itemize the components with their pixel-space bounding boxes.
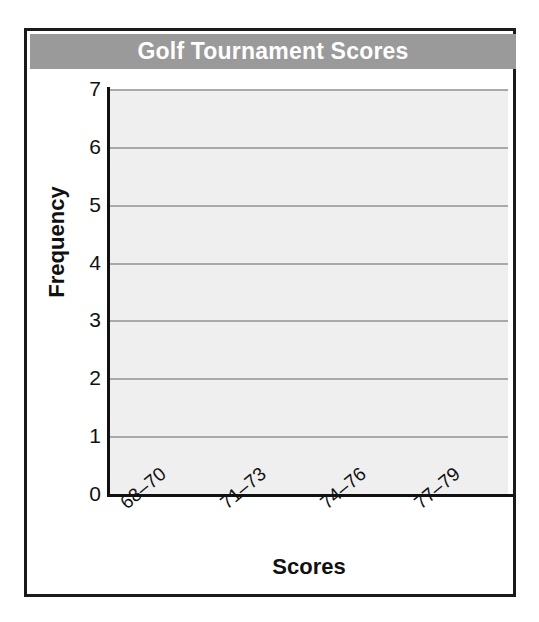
chart-figure-frame: Golf Tournament Scores 7 6 5 4 3 2 1 0 F… xyxy=(24,28,516,597)
y-axis-tick-labels: 7 6 5 4 3 2 1 0 xyxy=(67,31,101,594)
gridline-7 xyxy=(110,89,508,91)
y-tick-label: 0 xyxy=(67,483,101,504)
gridline-3 xyxy=(110,320,508,322)
y-tick-label: 7 xyxy=(67,78,101,99)
y-tick-label: 1 xyxy=(67,425,101,446)
y-axis-line xyxy=(107,87,110,497)
gridline-1 xyxy=(110,436,508,438)
y-tick-label: 3 xyxy=(67,309,101,330)
x-axis-tick-labels: 68–70 71–73 74–76 77–79 xyxy=(110,497,508,557)
y-tick-label: 5 xyxy=(67,194,101,215)
gridline-6 xyxy=(110,147,508,149)
chart-title-banner: Golf Tournament Scores xyxy=(30,34,516,69)
chart-title: Golf Tournament Scores xyxy=(137,40,408,63)
gridline-4 xyxy=(110,263,508,265)
plot-area xyxy=(110,89,508,494)
gridline-2 xyxy=(110,378,508,380)
y-axis-title: Frequency xyxy=(44,152,70,332)
y-tick-label: 2 xyxy=(67,367,101,388)
y-tick-label: 4 xyxy=(67,252,101,273)
y-tick-label: 6 xyxy=(67,136,101,157)
gridline-5 xyxy=(110,205,508,207)
x-axis-title: Scores xyxy=(110,554,508,580)
